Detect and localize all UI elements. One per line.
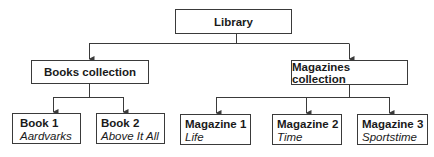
node-label: Book 1: [20, 117, 80, 130]
node-magazine-3: Magazine 3 Sportstime: [357, 114, 428, 145]
node-books-collection: Books collection: [31, 60, 149, 84]
node-title: Above It All: [101, 130, 164, 143]
node-magazine-2: Magazine 2 Time: [272, 114, 342, 145]
node-library: Library: [175, 9, 292, 34]
node-book-2: Book 2 Above It All: [96, 113, 165, 144]
node-label: Magazine 3: [362, 118, 427, 131]
node-label: Library: [214, 16, 253, 28]
node-title: Sportstime: [362, 131, 427, 144]
node-magazine-1: Magazine 1 Life: [180, 114, 251, 145]
node-label: Book 2: [101, 117, 164, 130]
node-magazines-collection: Magazines collection: [291, 60, 408, 85]
node-book-1: Book 1 Aardvarks: [12, 113, 81, 144]
node-title: Life: [185, 131, 250, 144]
node-label: Magazine 2: [277, 118, 341, 131]
node-title: Time: [277, 131, 341, 144]
node-label: Magazine 1: [185, 118, 250, 131]
node-title: Aardvarks: [20, 130, 80, 143]
node-label: Magazines collection: [292, 61, 407, 85]
node-label: Books collection: [44, 66, 136, 78]
